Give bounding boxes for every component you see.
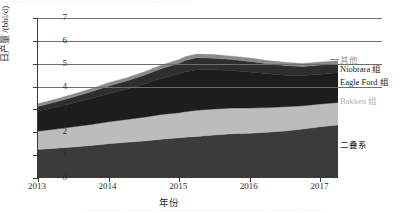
y-tick-label-2: 2 — [47, 127, 67, 136]
y-tick-label-1: 1 — [47, 150, 67, 159]
y-tick-label-5: 5 — [47, 59, 67, 68]
y-tick-label-4: 4 — [47, 82, 67, 91]
gridline-4 — [38, 87, 382, 88]
gridline-5 — [38, 64, 382, 65]
x-tick-label-2014: 2014 — [88, 181, 128, 191]
legend-label-1: Niobrara 组 — [340, 64, 381, 74]
plot-area — [37, 18, 337, 178]
y-tick-5 — [33, 64, 38, 65]
y-tick-3 — [33, 109, 38, 110]
x-tick-label-2016: 2016 — [229, 181, 269, 191]
y-tick-label-3: 3 — [47, 104, 67, 113]
legend-swatch-0 — [330, 59, 339, 60]
legend-label-3: Bakken 组 — [340, 96, 377, 106]
y-tick-7 — [33, 18, 38, 19]
page-top-cutoff-text: ⋯⋯⋯⋯ ⋯⋯ ⋯ ⋯⋯ ⋯⋯⋯ ⋯ ⋯⋯⋯⋯ ⋯⋯ ⋯ ⋯⋯ — [0, 0, 409, 7]
y-tick-6 — [33, 41, 38, 42]
chart-figure: ⋯⋯⋯⋯ ⋯⋯ ⋯ ⋯⋯ ⋯⋯⋯ ⋯ ⋯⋯⋯⋯ ⋯⋯ ⋯ ⋯⋯ 01234567… — [0, 0, 409, 213]
page-bottom-cutoff-text: ⋯⋯⋯⋯⋯ ⋯⋯⋯⋯ ⋯⋯ ⋯⋯⋯⋯ ⋯⋯⋯⋯⋯ ⋯⋯ ⋯⋯⋯⋯ ⋯⋯⋯ — [0, 207, 409, 213]
y-axis-title: 日产量 /(bbl/d) — [0, 6, 11, 62]
y-tick-2 — [33, 132, 38, 133]
y-tick-1 — [33, 155, 38, 156]
y-tick-label-6: 6 — [47, 36, 67, 45]
y-tick-4 — [33, 87, 38, 88]
legend-label-4: 二叠系 — [340, 140, 367, 150]
gridline-7 — [38, 18, 382, 19]
x-tick-label-2017: 2017 — [299, 181, 339, 191]
legend-label-2: Eagle Ford 组 — [340, 77, 389, 87]
gridline-6 — [38, 41, 382, 42]
x-tick-label-2013: 2013 — [17, 181, 57, 191]
x-tick-label-2015: 2015 — [158, 181, 198, 191]
stacked-area-series-group — [38, 18, 338, 178]
y-tick-label-7: 7 — [47, 13, 67, 22]
